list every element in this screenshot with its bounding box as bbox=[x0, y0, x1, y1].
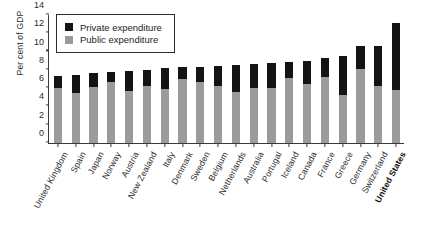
bar-belgium bbox=[214, 15, 222, 143]
bar-segment-public bbox=[374, 86, 382, 143]
bar-stack bbox=[72, 75, 80, 143]
bar-greece bbox=[339, 15, 347, 143]
bar-united-states bbox=[392, 15, 400, 143]
legend-label: Public expenditure bbox=[80, 34, 158, 45]
x-axis-labels: United KingdomSpainJapanNorwayAustriaNew… bbox=[48, 150, 404, 232]
bar-segment-public bbox=[392, 90, 400, 143]
bar-segment-public bbox=[356, 69, 364, 143]
bar-segment-private bbox=[54, 76, 62, 88]
x-tick-mark-3 bbox=[111, 143, 112, 147]
bar-segment-public bbox=[285, 78, 293, 143]
bar-segment-private bbox=[178, 67, 186, 80]
y-tick-label-2: 2 bbox=[39, 110, 49, 120]
y-tick-label-14: 14 bbox=[34, 0, 49, 10]
bar-stack bbox=[232, 65, 240, 143]
bar-stack bbox=[54, 76, 62, 143]
x-tick-mark-12 bbox=[271, 143, 272, 147]
bar-sweden bbox=[196, 15, 204, 143]
bar-segment-public bbox=[107, 82, 115, 143]
bar-portugal bbox=[267, 15, 275, 143]
bar-segment-private bbox=[107, 72, 115, 82]
bar-stack bbox=[196, 67, 204, 143]
y-axis-title: Per cent of GDP bbox=[15, 0, 25, 103]
x-tick-mark-9 bbox=[218, 143, 219, 147]
x-tick-mark-7 bbox=[182, 143, 183, 147]
bar-segment-public bbox=[89, 87, 97, 143]
y-tick-label-10: 10 bbox=[34, 37, 49, 47]
bar-stack bbox=[161, 68, 169, 143]
bar-segment-public bbox=[178, 79, 186, 143]
bar-segment-private bbox=[143, 70, 151, 86]
x-tick-mark-16 bbox=[342, 143, 343, 147]
x-tick-mark-18 bbox=[378, 143, 379, 147]
bar-canada bbox=[303, 15, 311, 143]
x-tick-mark-14 bbox=[307, 143, 308, 147]
bar-segment-private bbox=[392, 23, 400, 89]
y-tick-label-8: 8 bbox=[39, 55, 49, 65]
bar-stack bbox=[214, 66, 222, 143]
bar-segment-private bbox=[339, 56, 347, 95]
bar-stack bbox=[125, 71, 133, 143]
legend-swatch-public-icon bbox=[65, 36, 73, 44]
bar-segment-private bbox=[285, 62, 293, 78]
bar-segment-public bbox=[303, 84, 311, 143]
bar-stack bbox=[143, 70, 151, 143]
bar-stack bbox=[267, 63, 275, 143]
bar-stack bbox=[285, 62, 293, 143]
bar-segment-private bbox=[125, 71, 133, 91]
x-tick-mark-2 bbox=[93, 143, 94, 147]
bar-stack bbox=[89, 73, 97, 143]
bar-segment-private bbox=[356, 46, 364, 69]
bar-switzerland bbox=[374, 15, 382, 143]
bar-segment-public bbox=[232, 92, 240, 143]
bar-netherlands bbox=[232, 15, 240, 143]
health-expenditure-bar-chart: Per cent of GDP 02468101214 United Kingd… bbox=[0, 0, 426, 232]
bar-segment-public bbox=[143, 86, 151, 143]
bar-australia bbox=[250, 15, 258, 143]
bar-segment-private bbox=[250, 64, 258, 88]
x-tick-mark-5 bbox=[146, 143, 147, 147]
bar-segment-public bbox=[339, 95, 347, 143]
y-tick-label-0: 0 bbox=[39, 128, 49, 138]
bar-stack bbox=[339, 56, 347, 143]
bar-stack bbox=[303, 61, 311, 143]
bar-stack bbox=[392, 23, 400, 143]
bar-segment-public bbox=[214, 86, 222, 143]
bar-segment-private bbox=[161, 68, 169, 88]
bar-segment-public bbox=[125, 91, 133, 143]
x-tick-mark-1 bbox=[75, 143, 76, 147]
chart-legend: Private expenditurePublic expenditure bbox=[56, 14, 175, 53]
x-tick-mark-19 bbox=[396, 143, 397, 147]
bar-stack bbox=[374, 46, 382, 143]
x-tick-mark-0 bbox=[57, 143, 58, 147]
y-tick-label-12: 12 bbox=[34, 18, 49, 28]
bar-segment-private bbox=[214, 66, 222, 86]
bar-segment-private bbox=[321, 58, 329, 76]
bar-france bbox=[321, 15, 329, 143]
x-tick-mark-6 bbox=[164, 143, 165, 147]
bar-germany bbox=[356, 15, 364, 143]
bar-segment-public bbox=[267, 88, 275, 143]
x-tick-mark-15 bbox=[324, 143, 325, 147]
bar-segment-public bbox=[321, 77, 329, 143]
bar-stack bbox=[321, 58, 329, 143]
x-axis-label-italy: Italy bbox=[160, 150, 176, 169]
bar-segment-private bbox=[267, 63, 275, 88]
bar-segment-private bbox=[374, 46, 382, 86]
y-tick-label-6: 6 bbox=[39, 73, 49, 83]
x-tick-mark-17 bbox=[360, 143, 361, 147]
x-tick-mark-4 bbox=[129, 143, 130, 147]
x-axis-label-united-kingdom: United Kingdom bbox=[32, 150, 70, 210]
bar-segment-private bbox=[303, 61, 311, 84]
bar-segment-private bbox=[72, 75, 80, 93]
bar-segment-public bbox=[72, 93, 80, 143]
x-tick-mark-8 bbox=[200, 143, 201, 147]
x-tick-mark-13 bbox=[289, 143, 290, 147]
bar-segment-private bbox=[232, 65, 240, 93]
legend-label: Private expenditure bbox=[80, 22, 162, 33]
bar-segment-private bbox=[196, 67, 204, 83]
bar-segment-public bbox=[54, 88, 62, 143]
bar-stack bbox=[356, 46, 364, 143]
bar-segment-public bbox=[196, 82, 204, 143]
x-tick-mark-11 bbox=[253, 143, 254, 147]
